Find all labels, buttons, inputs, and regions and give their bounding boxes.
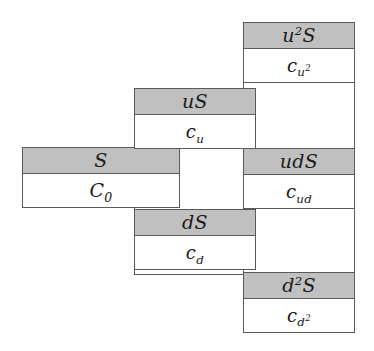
node-up-down-asset-header: udS [244, 149, 354, 175]
node-up-up-exponent: 2 [295, 24, 303, 38]
node-up[interactable]: uS cu [134, 88, 256, 149]
node-down-option-value: cd [135, 236, 255, 269]
node-root-option-subscript: 0 [104, 190, 112, 205]
node-down-down-asset-label: d2S [282, 276, 316, 295]
node-root[interactable]: S C0 [22, 147, 180, 208]
node-up-up-asset-label: u2S [282, 26, 316, 45]
node-down-down-option-sub-exponent: 2 [305, 313, 311, 323]
node-up-up-option-label: cu2 [287, 57, 311, 75]
node-up-up-option-subscript: u2 [297, 65, 311, 79]
node-down-option-subscript: d [196, 252, 204, 266]
node-root-option-label: C0 [89, 181, 112, 200]
node-down-down-option-subscript: d2 [297, 315, 311, 329]
node-root-asset-header: S [23, 148, 179, 174]
node-up-down-asset-label: udS [280, 152, 318, 171]
node-up-up-option-value: cu2 [244, 49, 354, 82]
node-down-down[interactable]: d2S cd2 [243, 272, 355, 333]
node-up-up-asset-header: u2S [244, 23, 354, 49]
node-down[interactable]: dS cd [134, 209, 256, 270]
node-up-option-label: cu [186, 123, 204, 141]
node-up-down[interactable]: udS cud [243, 148, 355, 209]
node-down-option-label: cd [186, 244, 204, 262]
node-up-option-value: cu [135, 115, 255, 148]
node-root-asset-label: S [94, 151, 107, 170]
node-down-asset-label: dS [182, 213, 208, 232]
node-down-down-asset-header: d2S [244, 273, 354, 299]
node-down-down-option-label: cd2 [287, 307, 311, 325]
node-up-option-subscript: u [196, 131, 204, 145]
node-up-asset-header: uS [135, 89, 255, 115]
node-up-up-option-sub-exponent: 2 [305, 63, 311, 73]
node-down-down-option-value: cd2 [244, 299, 354, 332]
node-up-up[interactable]: u2S cu2 [243, 22, 355, 83]
node-up-down-option-label: cud [286, 183, 312, 201]
binomial-lattice-diagram: S C0 uS cu dS cd u2S cu2 udS [0, 0, 374, 351]
node-up-asset-label: uS [182, 92, 208, 111]
node-root-option-value: C0 [23, 174, 179, 207]
node-down-asset-header: dS [135, 210, 255, 236]
node-up-down-option-subscript: ud [296, 191, 312, 205]
node-up-down-option-value: cud [244, 175, 354, 208]
